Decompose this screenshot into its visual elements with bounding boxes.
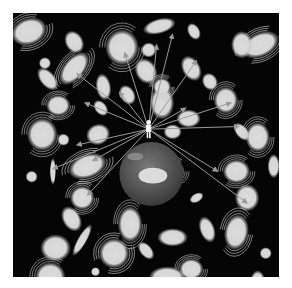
observer-leg [149,132,151,138]
elliptical-galaxy [250,270,265,277]
observer-body [146,124,151,132]
elliptical-galaxy [195,214,219,245]
spiral-galaxy [216,205,257,259]
elliptical-galaxy [157,228,188,246]
earth-landmass [127,153,143,161]
spiral-galaxy [241,117,274,158]
galaxy-field [13,13,279,277]
spiral-galaxy [22,112,63,157]
elliptical-galaxy [90,97,111,119]
elliptical-galaxy [57,134,69,146]
elliptical-galaxy [231,31,252,58]
earth [119,142,183,206]
elliptical-galaxy [199,70,221,93]
elliptical-galaxy [83,120,113,148]
earth-cloud [139,168,168,184]
elliptical-galaxy [39,57,51,69]
observer-figure [146,120,151,138]
elliptical-galaxy [50,158,56,185]
galaxy-illustration [13,13,279,277]
observer-head [146,120,150,124]
elliptical-galaxy [26,171,38,183]
elliptical-galaxy [94,72,114,102]
elliptical-galaxy [268,154,279,178]
spiral-galaxy [57,142,118,191]
elliptical-galaxy [141,42,156,57]
arrow [149,127,239,130]
spiral-galaxy [13,13,58,57]
elliptical-galaxy [235,184,259,211]
elliptical-galaxy [91,267,100,276]
caption-fragment [13,281,279,288]
elliptical-galaxy [188,190,206,206]
elliptical-galaxy [260,247,272,259]
elliptical-galaxy [184,21,204,43]
observer-leg [147,132,149,138]
elliptical-galaxy [163,124,181,139]
elliptical-galaxy [176,109,200,127]
arrow [77,74,149,129]
elliptical-galaxy [115,82,139,108]
spiral-galaxy [218,155,255,188]
